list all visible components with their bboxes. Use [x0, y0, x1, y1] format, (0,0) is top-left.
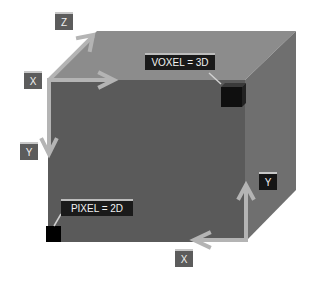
- axis-label-z: Z: [55, 12, 73, 30]
- cube-diagram: [0, 0, 312, 281]
- pixel-callout: PIXEL = 2D: [61, 199, 133, 216]
- voxel-cube: [221, 83, 246, 107]
- voxel-callout: VOXEL = 3D: [145, 53, 215, 70]
- pixel-square: [46, 226, 61, 242]
- axis-label-y-left: Y: [20, 142, 38, 160]
- axis-label-y-right: Y: [259, 172, 277, 190]
- cube-front-face: [48, 80, 245, 242]
- axis-label-x-bottom: X: [175, 249, 193, 267]
- axis-label-x-top: X: [24, 71, 42, 89]
